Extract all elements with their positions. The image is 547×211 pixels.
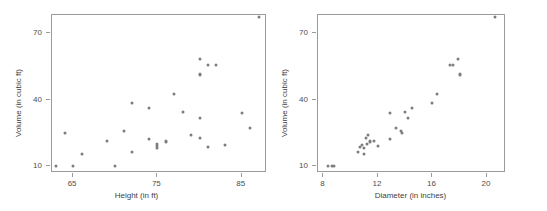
data-point [431,102,434,105]
data-point [131,151,134,154]
figure-container: 657585104070 Height (in ft) Volume (in c… [0,0,547,211]
data-point [411,106,414,109]
y-axis-tick [46,32,50,33]
data-point [206,145,209,148]
data-point [394,126,397,129]
x-axis-tick [377,173,378,177]
data-point [131,102,134,105]
scatter-panel-diameter-vs-volume: 8121620104070 Diameter (in inches) Volum… [274,0,547,211]
data-point [181,110,184,113]
data-point [122,130,125,133]
y-axis-tick [46,165,50,166]
y-axis-tick-label: 10 [18,161,42,170]
data-point [333,164,336,167]
x-axis-tick-label: 65 [57,179,87,188]
data-point [173,92,176,95]
data-point [356,151,359,154]
data-point [326,164,329,167]
x-axis-tick-label: 12 [362,179,392,188]
data-point [401,132,404,135]
data-point [368,139,371,142]
data-point [451,63,454,66]
x-axis-tick-label: 16 [416,179,446,188]
data-point [494,16,497,19]
data-point [80,152,83,155]
data-points-layer-left [52,15,265,171]
data-point [206,64,209,67]
data-points-layer-right [318,15,504,171]
data-point [363,152,366,155]
data-point [458,74,461,77]
y-axis-tick-label: 70 [18,27,42,36]
data-point [198,137,201,140]
data-point [406,117,409,120]
data-point [435,92,438,95]
data-point [389,112,392,115]
data-point [389,138,392,141]
x-axis-tick [156,173,157,177]
x-axis-tick [322,173,323,177]
data-point [364,137,367,140]
data-point [147,106,150,109]
x-axis-tick [72,173,73,177]
y-axis-title-left: Volume (in cubic ft) [14,69,24,137]
data-point [190,133,193,136]
y-axis-tick [312,32,316,33]
data-point [372,140,375,143]
x-axis-tick-label: 8 [307,179,337,188]
data-point [367,133,370,136]
scatter-panel-height-vs-volume: 657585104070 Height (in ft) Volume (in c… [0,0,273,211]
y-axis-tick [312,165,316,166]
data-point [366,143,369,146]
x-axis-tick-label: 20 [471,179,501,188]
y-axis-tick [46,99,50,100]
plot-frame-right [317,14,505,172]
data-point [457,57,460,60]
data-point [114,164,117,167]
y-axis-title-right: Volume (in cubic ft) [280,69,290,137]
x-axis-tick [241,173,242,177]
x-axis-title-right: Diameter (in inches) [274,191,547,201]
data-point [63,132,66,135]
y-axis-tick-label: 70 [284,27,308,36]
data-point [363,147,366,150]
data-point [156,145,159,148]
data-point [257,16,260,19]
data-point [249,126,252,129]
data-point [198,117,201,120]
x-axis-tick-label: 75 [141,179,171,188]
plot-frame-left [51,14,266,172]
data-point [240,112,243,115]
data-point [105,140,108,143]
y-axis-tick-label: 10 [284,161,308,170]
data-point [223,143,226,146]
data-point [215,63,218,66]
x-axis-tick-label: 85 [226,179,256,188]
data-point [55,164,58,167]
data-point [376,145,379,148]
data-point [164,139,167,142]
y-axis-tick [312,99,316,100]
x-axis-tick [431,173,432,177]
data-point [198,57,201,60]
data-point [147,138,150,141]
data-point [72,164,75,167]
data-point [198,74,201,77]
x-axis-tick [486,173,487,177]
data-point [404,110,407,113]
x-axis-title-left: Height (in ft) [0,191,273,201]
